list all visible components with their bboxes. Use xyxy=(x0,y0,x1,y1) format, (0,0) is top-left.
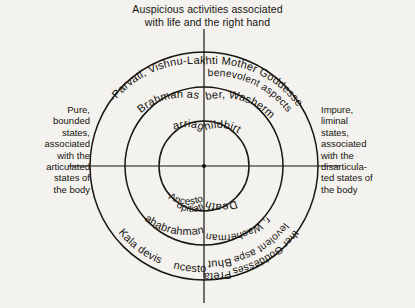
inner-segment-ancestor-propitiation-line-2: Propitiation xyxy=(0,0,206,214)
outer-segment-sashti-mother-goddesses-line-1: Sashti Mother Goddesses in xyxy=(0,0,306,108)
inner-segment-childbirth: Childbirth xyxy=(0,0,243,135)
center-point xyxy=(202,164,206,168)
outer-segment-preta-bhuta-line-1: Preta xyxy=(203,269,233,283)
outer-segment-mother-goddesses-malevolent-line-2: malevolent aspects xyxy=(0,0,291,266)
inner-segment-death: Death xyxy=(203,199,240,214)
inner-segment-ancestor-propitiation-line-1: Ancestor xyxy=(0,0,205,206)
mandala-svg: Marriage Childbirth Death Ancestor Propi… xyxy=(0,0,415,308)
diagram-canvas: Auspicious activities associated with li… xyxy=(0,0,415,308)
outer-segment-shiva-parvati-vishnu-lakshmi: Shiva-Parvati, Vishnu-Lakshmi xyxy=(0,0,207,103)
outer-segment-mother-goddesses-malevolent-line-1: Mother Goddesses in xyxy=(0,0,301,277)
